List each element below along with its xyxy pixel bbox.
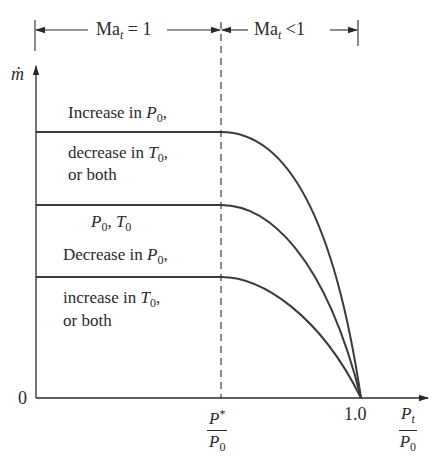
lower-curve-label-line1: Decrease in P0,: [63, 245, 168, 270]
x-axis-label: Pt P0: [399, 404, 417, 457]
origin-label: 0: [18, 388, 27, 408]
region-brackets: [35, 20, 358, 51]
region-label-subsonic: Mat <1: [254, 19, 305, 45]
y-axis-label: ṁ: [11, 64, 24, 84]
diagram-canvas: [0, 0, 440, 466]
lower-curve-label-line2: increase in T0,: [63, 288, 160, 313]
upper-curve-label-line1: Increase in P0,: [68, 103, 167, 128]
lower-curve-label-line3: or both: [63, 311, 112, 331]
upper-curve-label-line3: or both: [68, 165, 117, 185]
middle-curve-label: P0, T0: [91, 212, 131, 237]
region-label-choked: Mat = 1: [96, 19, 152, 45]
x-tick-critical-ratio: P* P0: [207, 404, 227, 457]
x-tick-one: 1.0: [344, 404, 367, 424]
